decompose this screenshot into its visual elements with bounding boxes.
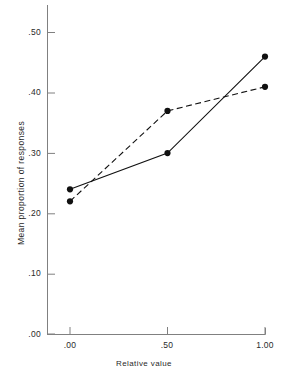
- data-point: [67, 186, 73, 192]
- series-solid-markers: [67, 54, 268, 193]
- x-tick-marks: [70, 327, 265, 334]
- figure-container: .50 .40 .30 .20 .10 .00 .00 .50 1.00 Mea…: [0, 0, 288, 378]
- y-tick-marks: [48, 33, 55, 335]
- y-axis-label: Mean proportion of responses: [16, 121, 26, 245]
- chart-plot-area: [0, 0, 288, 378]
- x-tick-label-000: .00: [52, 340, 88, 350]
- x-tick-label-050: .50: [149, 340, 185, 350]
- data-point: [164, 150, 170, 156]
- y-tick-label-00: .00: [8, 329, 41, 339]
- y-tick-label-50: .50: [8, 27, 41, 37]
- series-solid-line: [70, 57, 265, 190]
- y-tick-label-10: .10: [8, 268, 41, 278]
- data-point: [262, 54, 268, 60]
- series-dashed-line: [70, 87, 265, 202]
- data-point: [262, 84, 268, 90]
- x-axis-label: Relative value: [0, 359, 288, 368]
- series-dashed-markers: [67, 84, 268, 205]
- data-point: [67, 198, 73, 204]
- x-tick-label-100: 1.00: [245, 340, 285, 350]
- data-point: [164, 108, 170, 114]
- y-tick-label-40: .40: [8, 87, 41, 97]
